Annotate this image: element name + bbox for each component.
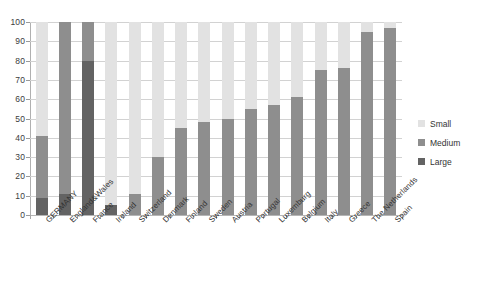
legend-label: Large [430, 157, 452, 167]
bar-group[interactable] [361, 22, 373, 215]
bar-chart: 0102030405060708090100 GERMANYEngland&Wa… [0, 0, 496, 281]
bar-large[interactable] [36, 198, 48, 215]
chart-legend: SmallMediumLarge [418, 114, 492, 171]
y-axis-tick-label: 60 [15, 94, 25, 104]
plot-area: 0102030405060708090100 [30, 22, 402, 215]
bar-group[interactable] [338, 22, 350, 215]
bar-group[interactable] [384, 22, 396, 215]
legend-item-medium[interactable]: Medium [418, 133, 492, 152]
bar-group[interactable] [245, 22, 257, 215]
bar-medium[interactable] [245, 109, 257, 215]
legend-swatch-small-icon [418, 120, 425, 127]
bar-series-container [30, 22, 402, 215]
bar-group[interactable] [82, 22, 94, 215]
y-axis-tick-label: 80 [15, 56, 25, 66]
legend-item-small[interactable]: Small [418, 114, 492, 133]
legend-label: Medium [430, 138, 460, 148]
bar-group[interactable] [315, 22, 327, 215]
bar-group[interactable] [268, 22, 280, 215]
bar-group[interactable] [152, 22, 164, 215]
y-axis-tick-label: 70 [15, 75, 25, 85]
bar-medium[interactable] [384, 28, 396, 215]
y-axis-tick-label: 20 [15, 171, 25, 181]
bar-medium[interactable] [361, 32, 373, 215]
bar-medium[interactable] [59, 22, 71, 215]
y-axis-tick-label: 0 [20, 210, 25, 220]
bar-medium[interactable] [338, 68, 350, 215]
legend-swatch-large-icon [418, 158, 425, 165]
bar-group[interactable] [198, 22, 210, 215]
y-axis-tick-label: 90 [15, 36, 25, 46]
bar-group[interactable] [222, 22, 234, 215]
bar-group[interactable] [59, 22, 71, 215]
legend-label: Small [430, 119, 451, 129]
y-axis-tick-label: 50 [15, 114, 25, 124]
bar-group[interactable] [175, 22, 187, 215]
x-axis-labels: GERMANYEngland&WalesFranceIrelandSwitzer… [30, 218, 403, 280]
y-axis-tick-label: 10 [15, 191, 25, 201]
y-axis-tick-label: 40 [15, 133, 25, 143]
bar-small[interactable] [129, 22, 141, 215]
legend-item-large[interactable]: Large [418, 152, 492, 171]
bar-medium[interactable] [315, 70, 327, 215]
bar-group[interactable] [291, 22, 303, 215]
legend-swatch-medium-icon [418, 139, 425, 146]
y-axis-tick-label: 30 [15, 152, 25, 162]
y-axis-tick-label: 100 [11, 17, 25, 27]
bar-group[interactable] [129, 22, 141, 215]
bar-group[interactable] [36, 22, 48, 215]
